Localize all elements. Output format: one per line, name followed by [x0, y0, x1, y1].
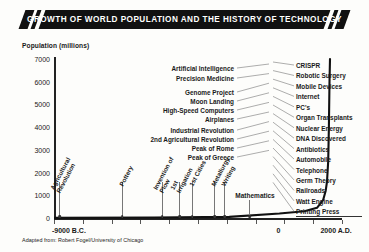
x-tick: [342, 220, 343, 224]
x-tick: [54, 220, 55, 224]
center-event-label: Moon Landing: [190, 98, 234, 105]
x-tick: [83, 220, 84, 224]
center-event-label: Artificial Intelligence: [171, 65, 234, 72]
center-event-label: 2nd Agricultural Revolution: [150, 136, 234, 143]
right-event-label: Printing Press: [296, 208, 339, 215]
x-tick: [256, 220, 257, 224]
right-event-label: Robotic Surgery: [296, 72, 346, 79]
center-event-label: Industrial Revolution: [170, 127, 234, 134]
page-title: GROWTH OF WORLD POPULATION AND THE HISTO…: [22, 10, 347, 29]
y-tick-label: 3000: [34, 146, 50, 153]
event-marker-dot: [223, 215, 226, 218]
y-tick-label: 0: [46, 215, 50, 222]
event-marker-dot: [249, 215, 252, 218]
right-event-label: DNA Discovered: [296, 135, 346, 142]
x-tick: [227, 220, 228, 224]
y-tick-label: 4000: [34, 124, 50, 131]
center-event-labels: Artificial IntelligencePrecision Medicin…: [84, 57, 234, 207]
x-tick: [140, 220, 141, 224]
right-event-label: Germ Theory: [296, 176, 336, 183]
right-event-label: Telephone: [296, 166, 327, 173]
right-column-underline: [296, 216, 362, 217]
event-marker-dot: [58, 215, 61, 218]
right-event-label: Railroads: [296, 187, 325, 194]
center-event-label: Genome Project: [185, 89, 234, 96]
y-tick-label: 6000: [34, 78, 50, 85]
y-tick-label: 2000: [34, 169, 50, 176]
x-tick-label: 0: [276, 227, 280, 234]
x-tick-label: 2000 A.D.: [320, 227, 351, 234]
right-event-label: Antibiotics: [296, 145, 329, 152]
right-event-label: Mobile Devices: [296, 82, 342, 89]
y-axis-title: Population (millions): [22, 42, 89, 49]
x-tick: [313, 220, 314, 224]
right-event-label: Watt Engine: [296, 197, 333, 204]
event-marker-dot: [161, 215, 164, 218]
center-event-label: Precision Medicine: [176, 75, 234, 82]
x-tick-label: -9000 B.C.: [52, 227, 86, 234]
event-marker-dot: [213, 215, 216, 218]
x-tick: [169, 220, 170, 224]
x-tick: [284, 220, 285, 224]
center-event-label: Peak of Rome: [192, 145, 234, 152]
event-marker-dot: [178, 215, 181, 218]
right-event-label: PC's: [296, 103, 310, 110]
center-event-label: Airplanes: [205, 116, 234, 123]
y-tick-label: 1000: [34, 192, 50, 199]
y-tick-label: 7000: [34, 56, 50, 63]
right-event-label: Organ Transplants: [296, 114, 352, 121]
x-tick: [198, 220, 199, 224]
event-marker-dot: [191, 215, 194, 218]
right-event-label: Automobile: [296, 156, 331, 163]
right-event-label: Internet: [296, 93, 319, 100]
right-event-labels: CRISPRRobotic SurgeryMobile DevicesInter…: [296, 57, 368, 217]
y-tick-label: 5000: [34, 101, 50, 108]
event-marker-dot: [121, 215, 124, 218]
center-event-label: High-Speed Computers: [163, 107, 234, 114]
source-credit: Adapted from: Robert Fogel/University of…: [22, 237, 143, 243]
baseline-event-label: Mathematics: [235, 192, 274, 199]
center-event-label: Peak of Greece: [188, 154, 234, 161]
right-event-label: Nuclear Energy: [296, 124, 343, 131]
title-banner: GROWTH OF WORLD POPULATION AND THE HISTO…: [22, 10, 347, 29]
right-event-label: CRISPR: [296, 62, 320, 69]
x-tick: [112, 220, 113, 224]
